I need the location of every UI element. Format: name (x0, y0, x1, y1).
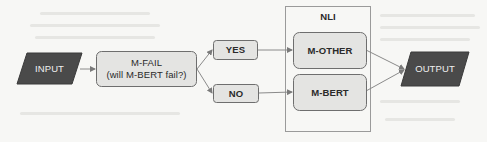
yes-node-label: YES (213, 40, 258, 60)
mfail-title: M-FAIL (131, 57, 162, 69)
mfail-subtitle: (will M-BERT fail?) (106, 69, 186, 81)
input-node-label: INPUT (17, 53, 82, 84)
edge-mfail-to-yes (197, 50, 212, 69)
edge-mfail-to-no (197, 69, 212, 93)
edge-mbert-to-output (366, 70, 404, 91)
mbert-node-label: M-BERT (293, 74, 367, 111)
edge-no-to-mbert (259, 92, 292, 93)
edge-mother-to-output (366, 50, 404, 69)
nli-group-label: NLI (285, 8, 371, 26)
output-node-label: OUTPUT (401, 52, 469, 86)
flowchart-diagram: INPUT M-FAIL (will M-BERT fail?) YES NO … (0, 0, 487, 142)
no-node-label: NO (213, 84, 259, 103)
mfail-node-label: M-FAIL (will M-BERT fail?) (96, 51, 197, 87)
mother-node-label: M-OTHER (293, 32, 367, 69)
